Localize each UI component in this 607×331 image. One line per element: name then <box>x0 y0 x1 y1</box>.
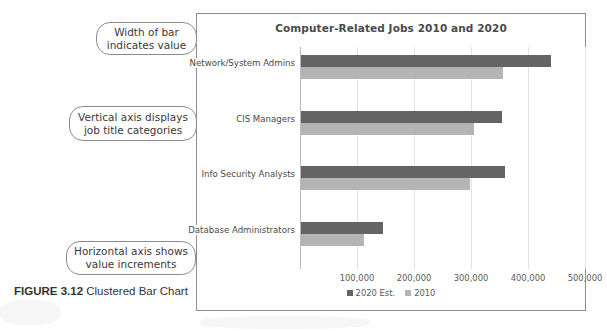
bar-series-2010 <box>300 123 474 135</box>
chart-container: Computer-Related Jobs 2010 and 2020 Netw… <box>196 13 586 311</box>
callout-line-1: Width of bar <box>114 26 179 39</box>
category-label: Info Security Analysts <box>199 169 295 179</box>
x-tick-label: 400,000 <box>511 273 546 283</box>
bar-series-2020 <box>300 166 505 178</box>
chart-title: Computer-Related Jobs 2010 and 2020 <box>197 22 585 34</box>
page-smudge <box>200 316 370 329</box>
x-tick-label: 200,000 <box>397 273 432 283</box>
category-label: CIS Managers <box>233 114 295 124</box>
legend-swatch <box>405 290 411 296</box>
legend-label: 2020 Est. <box>356 288 396 298</box>
x-tick-label: 500,000 <box>568 273 603 283</box>
bar-series-2020 <box>300 222 383 234</box>
callout-line-2: value increments <box>86 258 177 271</box>
page-smudge <box>0 300 60 325</box>
figure-caption: FIGURE 3.12 Clustered Bar Chart <box>14 284 194 299</box>
bar-series-2020 <box>300 111 502 123</box>
chart-legend: 2020 Est.2010 <box>197 288 585 298</box>
callout-line-2: indicates value <box>107 39 186 52</box>
plot-area: Network/System AdminsCIS ManagersInfo Se… <box>300 47 586 269</box>
category-label: Database Administrators <box>185 225 295 235</box>
x-tick-label: 100,000 <box>340 273 375 283</box>
legend-swatch <box>347 290 353 296</box>
bar-group: Database Administrators <box>300 222 586 246</box>
figure-label: FIGURE 3.12 <box>14 285 83 297</box>
figure-caption-text: Clustered Bar Chart <box>83 285 188 297</box>
callout-line-1: Vertical axis displays <box>78 111 188 124</box>
x-tick-label: 300,000 <box>454 273 489 283</box>
value-axis-line <box>300 47 301 269</box>
bar-group: Network/System Admins <box>300 55 586 79</box>
bar-group: CIS Managers <box>300 111 586 135</box>
callout-horizontal-axis: Horizontal axis shows value increments <box>66 241 196 275</box>
callout-vertical-axis: Vertical axis displays job title categor… <box>69 106 197 141</box>
legend-item: 2010 <box>405 288 435 298</box>
bar-group: Info Security Analysts <box>300 166 586 190</box>
bar-series-2010 <box>300 234 364 246</box>
category-label: Network/System Admins <box>187 58 295 68</box>
legend-item: 2020 Est. <box>347 288 396 298</box>
callout-line-2: job title categories <box>84 124 182 137</box>
callout-line-1: Horizontal axis shows <box>74 245 188 258</box>
legend-label: 2010 <box>414 288 435 298</box>
bar-series-2010 <box>300 178 470 190</box>
callout-width-of-bar: Width of bar indicates value <box>96 22 197 55</box>
bar-series-2020 <box>300 55 551 67</box>
bar-series-2010 <box>300 67 503 79</box>
